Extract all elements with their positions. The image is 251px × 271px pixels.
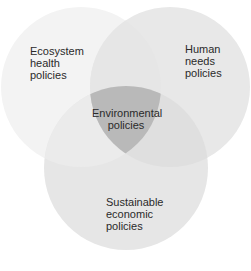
label-line: Environmental (92, 107, 160, 119)
label-line: policies (106, 220, 164, 232)
label-line: policies (185, 67, 222, 79)
environmental-policies-label: Environmental policies (92, 107, 160, 131)
ecosystem-health-label: Ecosystem health policies (30, 45, 84, 81)
label-line: health (30, 57, 84, 69)
label-line: needs (185, 55, 222, 67)
label-line: policies (92, 119, 160, 131)
label-line: Ecosystem (30, 45, 84, 57)
human-needs-label: Human needs policies (185, 43, 222, 79)
label-line: economic (106, 208, 164, 220)
label-line: Sustainable (106, 196, 164, 208)
label-line: Human (185, 43, 222, 55)
label-line: policies (30, 69, 84, 81)
sustainable-economic-label: Sustainable economic policies (106, 196, 164, 232)
